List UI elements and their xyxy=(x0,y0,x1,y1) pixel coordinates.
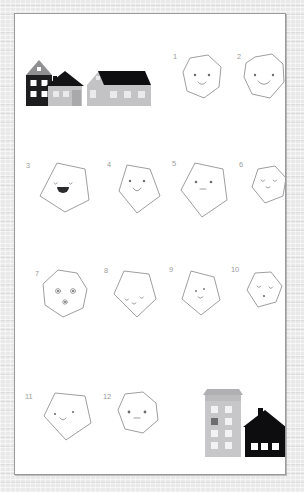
shape-number-12: 12 xyxy=(103,392,111,401)
shape-7-eye-left xyxy=(56,289,61,294)
shape-1-eye-right xyxy=(208,74,211,77)
shape-4-eye-right xyxy=(143,180,145,182)
shape-outline-2 xyxy=(244,54,284,98)
shape-1-eye-left xyxy=(194,74,197,77)
shape-outline-12 xyxy=(118,392,158,433)
shape-group-5[interactable]: 5 xyxy=(172,159,227,217)
shape-number-8: 8 xyxy=(104,266,108,275)
shape-1-mouth xyxy=(198,82,206,85)
shape-outline-5 xyxy=(181,163,227,217)
shape-group-4[interactable]: 4 xyxy=(107,160,160,213)
shape-11-mouth xyxy=(60,418,66,420)
shape-group-6[interactable]: 6 xyxy=(239,160,286,203)
shape-outline-6 xyxy=(252,166,286,203)
shape-10-eye-right xyxy=(269,287,273,289)
shape-4-mouth xyxy=(133,188,141,191)
shape-2-eye-left xyxy=(254,74,256,76)
shape-group-10[interactable]: 10 xyxy=(231,265,282,307)
shape-number-7: 7 xyxy=(35,269,39,278)
shape-8-eye-left xyxy=(125,299,128,300)
shape-4-eye-left xyxy=(129,180,131,182)
worksheet-canvas: 1 2 3 4 5 xyxy=(15,14,285,474)
shape-11-eye-left xyxy=(54,413,56,415)
shape-group-9[interactable]: 9 xyxy=(169,265,220,315)
shape-group-3[interactable]: 3 xyxy=(26,161,89,212)
black-house xyxy=(243,408,286,457)
shape-outline-8 xyxy=(114,271,156,317)
shape-group-2[interactable]: 2 xyxy=(237,52,284,98)
shape-number-1: 1 xyxy=(173,52,177,61)
shape-5-eye-right xyxy=(210,181,213,184)
shape-number-9: 9 xyxy=(169,265,173,274)
shape-9-eye-left xyxy=(195,290,197,292)
shape-outline-11 xyxy=(44,393,91,440)
tower-and-house xyxy=(203,389,286,457)
shape-7-mouth xyxy=(63,300,67,304)
shape-3-eye-right xyxy=(69,183,72,184)
shape-6-eye-left xyxy=(261,180,265,182)
shape-3-mouth xyxy=(57,187,69,193)
apartment-tower xyxy=(203,389,243,457)
shape-6-eye-right xyxy=(273,180,277,182)
shape-6-mouth xyxy=(266,187,270,188)
shape-number-3: 3 xyxy=(26,161,30,170)
shape-8-mouth xyxy=(132,303,136,304)
shape-number-5: 5 xyxy=(172,159,176,168)
shape-group-1[interactable]: 1 xyxy=(173,52,221,98)
shape-group-8[interactable]: 8 xyxy=(104,266,156,317)
shape-9-mouth xyxy=(198,297,203,298)
shape-number-4: 4 xyxy=(107,160,111,169)
shape-group-11[interactable]: 11 xyxy=(25,392,91,440)
shape-outline-9 xyxy=(182,271,220,315)
worksheet-sheet: 1 2 3 4 5 xyxy=(14,13,286,475)
shape-10-mouth xyxy=(263,295,265,297)
shape-12-eye-left xyxy=(128,411,131,414)
shape-group-7[interactable]: 7 xyxy=(35,269,87,317)
shape-7-eye-right xyxy=(71,289,76,294)
shape-11-eye-right xyxy=(72,411,74,413)
shape-3-eye-left xyxy=(54,183,57,184)
wide-gray-house xyxy=(87,71,151,106)
shape-2-eye-right xyxy=(272,74,274,76)
shape-group-12[interactable]: 12 xyxy=(103,392,158,433)
shape-outline-10 xyxy=(247,272,282,307)
shape-outline-7 xyxy=(43,270,87,317)
shape-number-10: 10 xyxy=(231,265,239,274)
shape-number-11: 11 xyxy=(25,392,33,401)
shape-9-eye-right xyxy=(203,288,205,290)
three-houses-row xyxy=(26,60,151,106)
shape-12-eye-right xyxy=(144,411,147,414)
shape-8-eye-right xyxy=(140,297,143,298)
shape-2-mouth xyxy=(258,81,270,85)
shape-outline-4 xyxy=(119,165,160,213)
shape-number-2: 2 xyxy=(237,52,241,61)
shape-10-eye-left xyxy=(257,286,261,288)
shape-5-eye-left xyxy=(195,181,198,184)
shape-outline-1 xyxy=(183,55,221,98)
shape-number-6: 6 xyxy=(239,160,243,169)
